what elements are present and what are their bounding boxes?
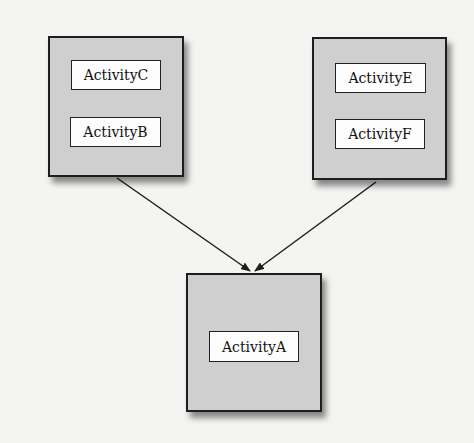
node-label-activity-a: ActivityA <box>209 331 299 362</box>
node-right-container: ActivityE ActivityF <box>312 37 447 180</box>
node-label-activity-f: ActivityF <box>335 119 425 149</box>
node-label-activity-b: ActivityB <box>70 117 161 147</box>
node-bottom-container: ActivityA <box>186 273 322 412</box>
node-label-activity-e: ActivityE <box>335 63 426 93</box>
node-left-container: ActivityC ActivityB <box>48 36 184 177</box>
edge-right-to-bottom <box>255 182 376 271</box>
edge-left-to-bottom <box>117 178 250 271</box>
node-label-activity-c: ActivityC <box>71 60 161 90</box>
